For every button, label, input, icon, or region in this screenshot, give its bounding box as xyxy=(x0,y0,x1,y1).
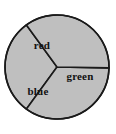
slice-label-green: green xyxy=(66,70,93,82)
slice-label-blue: blue xyxy=(28,85,49,97)
slice-label-red: red xyxy=(34,39,50,51)
pie-chart-svg: red green blue xyxy=(0,0,116,134)
spinner-figure: red green blue xyxy=(0,0,116,134)
